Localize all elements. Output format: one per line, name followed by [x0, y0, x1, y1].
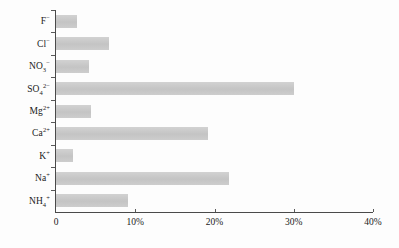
y-axis-label-chloride: Cl−	[0, 39, 50, 49]
x-axis-line	[55, 212, 373, 213]
bar-potassium	[56, 149, 73, 162]
y-axis-tick	[51, 10, 55, 11]
x-axis-label-20pct: 20%	[206, 216, 223, 228]
y-axis-tick	[51, 122, 55, 123]
y-axis-label-calcium: Ca2+	[0, 128, 50, 138]
x-axis-label-0: 0	[54, 216, 59, 228]
y-axis-label-nitrate: NO3−	[0, 61, 50, 71]
y-axis-tick	[51, 55, 55, 56]
y-axis-tick	[51, 100, 55, 101]
x-axis-label-30pct: 30%	[285, 216, 302, 228]
x-axis-tick	[294, 209, 295, 212]
bar-sulfate	[56, 82, 294, 95]
y-axis-tick	[51, 77, 55, 78]
y-axis-tick	[51, 145, 55, 146]
horizontal-bar-chart: F−Cl−NO3−SO42−Mg2+Ca2+K+Na+NH4+ 010%20%3…	[0, 0, 399, 248]
bar-chloride	[56, 37, 109, 50]
bar-fluoride	[56, 15, 77, 28]
bar-magnesium	[56, 105, 91, 118]
x-axis-label-10pct: 10%	[127, 216, 144, 228]
x-axis-tick	[215, 209, 216, 212]
y-axis-label-fluoride: F−	[0, 16, 50, 26]
y-axis-tick	[51, 190, 55, 191]
y-axis-label-sodium: Na+	[0, 173, 50, 183]
y-axis-tick	[51, 167, 55, 168]
y-axis-label-potassium: K+	[0, 151, 50, 161]
x-axis-tick	[373, 209, 374, 212]
bar-nitrate	[56, 60, 89, 73]
y-axis-tick	[51, 32, 55, 33]
x-axis-tick	[135, 209, 136, 212]
y-axis-label-sulfate: SO42−	[0, 84, 50, 94]
y-axis-label-ammonium: NH4+	[0, 196, 50, 206]
bar-ammonium	[56, 194, 128, 207]
bar-calcium	[56, 127, 208, 140]
x-axis-label-40pct: 40%	[364, 216, 381, 228]
bar-sodium	[56, 172, 229, 185]
y-axis-label-magnesium: Mg2+	[0, 106, 50, 116]
